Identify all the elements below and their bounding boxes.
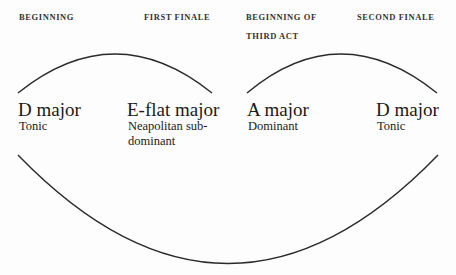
label-second-finale: SECOND FINALE xyxy=(357,8,434,27)
key-d-major-start: D major xyxy=(18,100,81,120)
label-beginning-third-act: BEGINNING OF THIRD ACT xyxy=(246,8,317,46)
arc-third-act xyxy=(247,54,437,93)
function-dominant: Dominant xyxy=(248,119,298,134)
label-first-finale: FIRST FINALE xyxy=(144,8,210,27)
function-neapolitan: Neapolitan sub- dominant xyxy=(128,119,208,149)
key-a-major: A major xyxy=(247,100,309,120)
label-beginning-third-act-line2: THIRD ACT xyxy=(246,27,317,46)
function-tonic-start: Tonic xyxy=(19,119,47,134)
arc-first-act xyxy=(18,54,212,93)
label-beginning: BEGINNING xyxy=(19,8,74,27)
key-e-flat-major: E-flat major xyxy=(127,100,219,120)
function-tonic-end: Tonic xyxy=(377,119,405,134)
arc-whole-opera xyxy=(18,155,438,264)
key-d-major-end: D major xyxy=(376,100,439,120)
label-beginning-third-act-line1: BEGINNING OF xyxy=(246,8,317,27)
arc-diagram xyxy=(0,0,456,275)
function-neapolitan-line1: Neapolitan sub- xyxy=(128,119,208,134)
function-neapolitan-line2: dominant xyxy=(128,134,208,149)
